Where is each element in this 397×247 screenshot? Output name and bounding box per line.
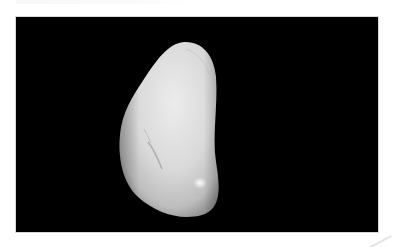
- pebble-image: [16, 17, 378, 232]
- corner-artifact: [368, 235, 392, 247]
- cropped-caption-remnant: [16, 0, 196, 4]
- page: [0, 0, 397, 247]
- photo-frame: [16, 17, 378, 232]
